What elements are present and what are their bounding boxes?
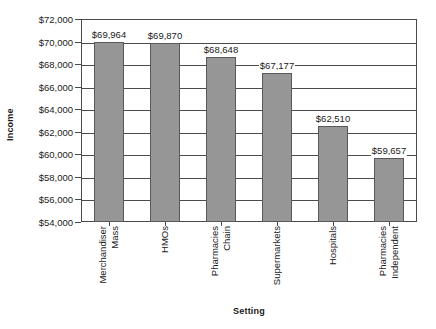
bar-value-label: $69,870 [147, 30, 183, 41]
y-axis-tick-label: $72,000 [7, 14, 73, 25]
x-axis-category-line: Pharmacies [377, 226, 389, 276]
bar-chart: Income $54,000$56,000$58,000$60,000$62,0… [0, 0, 436, 329]
x-axis-title: Setting [81, 306, 417, 316]
gridline [82, 133, 416, 134]
gridline [82, 65, 416, 66]
y-axis-tick-labels: $54,000$56,000$58,000$60,000$62,000$64,0… [0, 0, 73, 329]
x-axis-category-line: Chain [221, 226, 233, 251]
bar-value-label: $62,510 [315, 113, 351, 124]
bar-value-label: $59,657 [371, 145, 407, 156]
gridline [82, 155, 416, 156]
x-axis-category-line: Independent [389, 226, 401, 279]
gridline [82, 110, 416, 111]
gridline [82, 88, 416, 89]
x-axis-category-line: HMOs [159, 226, 171, 253]
y-axis-tick-label: $70,000 [7, 36, 73, 47]
gridline [82, 178, 416, 179]
gridline [82, 43, 416, 44]
x-axis-category-label: IndependentPharmacies [352, 226, 426, 302]
y-axis-tick-label: $68,000 [7, 59, 73, 70]
y-axis-tick-label: $56,000 [7, 194, 73, 205]
gridline [82, 200, 416, 201]
x-axis-category-line: Hospitals [327, 226, 339, 265]
x-axis-category-line: Supermarkets [271, 226, 283, 285]
x-axis-category-line: Mass [109, 226, 121, 249]
x-axis-category-labels: MassMerchandiserHMOsChainPharmaciesSuper… [81, 224, 417, 304]
x-axis-category-line: Pharmacies [209, 226, 221, 276]
y-axis-tick-label: $54,000 [7, 217, 73, 228]
bar-value-label: $69,964 [91, 29, 127, 40]
y-axis-tick-label: $64,000 [7, 104, 73, 115]
y-axis-tick-label: $66,000 [7, 81, 73, 92]
plot-area [81, 19, 417, 222]
y-axis-tick-label: $60,000 [7, 149, 73, 160]
y-axis-tick-mark [75, 222, 81, 223]
bar-value-label: $68,648 [203, 44, 239, 55]
bar-value-label: $67,177 [259, 60, 295, 71]
x-axis-category-line: Merchandiser [97, 226, 109, 284]
y-axis-tick-label: $62,000 [7, 126, 73, 137]
y-axis-tick-label: $58,000 [7, 171, 73, 182]
